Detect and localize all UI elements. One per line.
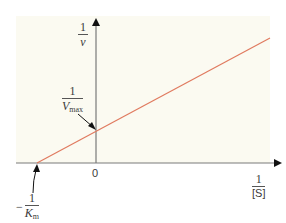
km-pointer <box>33 170 36 193</box>
vmax-den-sub: max <box>69 105 83 114</box>
x-axis-arrow-icon <box>274 159 282 167</box>
km-den-main: K <box>25 206 33 220</box>
origin-label: 0 <box>92 168 98 179</box>
y-axis-arrow-icon <box>92 18 100 26</box>
y-label-denominator: v <box>80 35 85 48</box>
x-axis-label: 1 [S] <box>252 170 265 199</box>
x-label-numerator: 1 <box>254 173 264 186</box>
plot-area <box>0 0 286 223</box>
km-arrow-icon <box>33 164 40 172</box>
km-minus: − <box>16 201 23 213</box>
y-axis-label: 1 v <box>78 18 88 48</box>
x-label-denominator: [S] <box>252 187 265 199</box>
y-label-numerator: 1 <box>78 21 88 34</box>
km-label: − 1 Km <box>16 192 39 221</box>
vmax-numerator: 1 <box>68 85 78 98</box>
vmax-label: 1 Vmax <box>62 82 83 114</box>
km-numerator: 1 <box>27 192 37 205</box>
km-den-sub: m <box>33 212 39 221</box>
